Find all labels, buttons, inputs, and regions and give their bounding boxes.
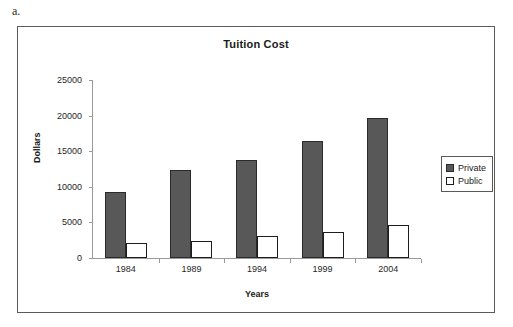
y-tick-25000: 25000 <box>89 80 93 81</box>
chart-container: Tuition Cost Dollars 0 5000 10000 15000 … <box>17 26 495 313</box>
bar-private-1984 <box>105 192 126 258</box>
y-axis-title: Dollars <box>32 132 42 163</box>
x-tick-2004 <box>421 259 422 263</box>
legend-label-private: Private <box>458 163 486 173</box>
chart-legend: Private Public <box>441 156 493 192</box>
x-axis-line <box>92 258 421 259</box>
legend-item-private[interactable]: Private <box>446 161 486 174</box>
x-tick-1999 <box>355 259 356 263</box>
legend-swatch-private-icon <box>446 164 454 172</box>
plot-area: 0 5000 10000 15000 20000 25000 198419891… <box>93 80 421 258</box>
bar-private-1999 <box>302 141 323 258</box>
x-tick-1994 <box>290 259 291 263</box>
y-tick-5000: 5000 <box>89 222 93 223</box>
y-axis-line <box>92 80 93 259</box>
y-tick-label-5000: 5000 <box>62 217 82 227</box>
x-axis-title: Years <box>93 289 421 299</box>
legend-swatch-public-icon <box>446 177 454 185</box>
x-tick-1989 <box>224 259 225 263</box>
bar-public-1989 <box>191 241 212 258</box>
y-tick-10000: 10000 <box>89 187 93 188</box>
y-tick-15000: 15000 <box>89 151 93 152</box>
x-axis-label-1989: 1989 <box>181 264 201 274</box>
chart-title: Tuition Cost <box>18 38 494 50</box>
y-tick-20000: 20000 <box>89 116 93 117</box>
x-axis-label-1984: 1984 <box>116 264 136 274</box>
legend-item-public[interactable]: Public <box>446 174 486 187</box>
bar-public-1994 <box>257 236 278 258</box>
y-tick-0: 0 <box>89 258 93 259</box>
legend-label-public: Public <box>458 176 483 186</box>
bar-private-1989 <box>170 170 191 258</box>
y-tick-label-25000: 25000 <box>57 75 82 85</box>
bar-public-1999 <box>323 232 344 258</box>
figure-label: a. <box>12 4 20 19</box>
y-tick-label-15000: 15000 <box>57 146 82 156</box>
bar-private-1994 <box>236 160 257 258</box>
x-axis-label-1999: 1999 <box>313 264 333 274</box>
y-tick-label-10000: 10000 <box>57 182 82 192</box>
x-tick-1984 <box>159 259 160 263</box>
x-axis-label-1994: 1994 <box>247 264 267 274</box>
bar-public-1984 <box>126 243 147 258</box>
x-axis-label-2004: 2004 <box>378 264 398 274</box>
bar-private-2004 <box>367 118 388 258</box>
bar-public-2004 <box>388 225 409 258</box>
y-tick-label-20000: 20000 <box>57 111 82 121</box>
y-tick-label-0: 0 <box>77 253 82 263</box>
